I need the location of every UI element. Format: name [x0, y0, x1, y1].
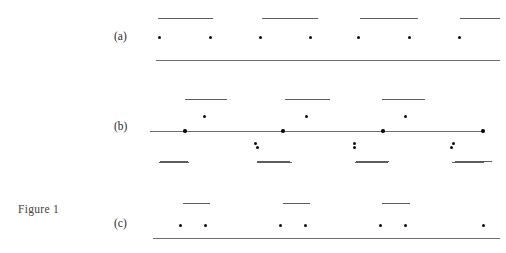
tick-segment-a-main-2	[360, 18, 418, 19]
data-point-c-lower-2	[279, 224, 282, 227]
baseline-a	[156, 60, 500, 61]
data-point-c-upper-2	[452, 142, 455, 145]
data-point-b-below-0	[256, 146, 259, 149]
data-point-b-below-2	[450, 146, 453, 149]
data-point-c-lower-3	[304, 224, 307, 227]
data-point-c-lower-4	[379, 224, 382, 227]
tick-segment-b-above-2	[382, 99, 425, 100]
data-point-b-online-0	[183, 129, 186, 132]
data-point-b-online-2	[381, 129, 384, 132]
tick-segment-c-upper-2	[356, 161, 389, 162]
panel-label-a: (a)	[114, 30, 127, 42]
data-point-a-main-5	[408, 36, 411, 39]
data-point-c-lower-6	[482, 224, 485, 227]
data-point-a-main-1	[209, 36, 212, 39]
data-point-c-lower-0	[179, 224, 182, 227]
baseline-b	[150, 131, 484, 132]
data-point-c-lower-5	[404, 224, 407, 227]
data-point-a-main-2	[259, 36, 262, 39]
tick-segment-c-lower-1	[283, 203, 310, 204]
data-point-a-main-4	[357, 36, 360, 39]
data-point-c-upper-0	[254, 142, 257, 145]
data-point-b-above-0	[203, 115, 206, 118]
tick-segment-c-lower-2	[382, 203, 410, 204]
data-point-c-upper-1	[353, 142, 356, 145]
panel-label-c: (c)	[114, 217, 127, 229]
tick-segment-c-upper-1	[257, 161, 290, 162]
tick-segment-c-upper-0	[160, 161, 188, 162]
tick-segment-c-upper-3	[455, 161, 492, 162]
data-point-b-below-1	[353, 146, 356, 149]
tick-segment-a-main-0	[158, 18, 213, 19]
panel-label-b: (b)	[114, 120, 127, 132]
data-point-a-main-3	[309, 36, 312, 39]
tick-segment-b-below-0	[159, 162, 189, 163]
baseline-c	[153, 238, 500, 239]
tick-segment-b-below-1	[257, 162, 292, 163]
tick-segment-b-above-0	[185, 99, 227, 100]
tick-segment-b-below-2	[355, 162, 388, 163]
data-point-b-online-3	[481, 129, 484, 132]
data-point-b-above-2	[404, 115, 407, 118]
tick-segment-b-below-3	[452, 162, 484, 163]
data-point-b-above-1	[305, 115, 308, 118]
data-point-b-online-1	[281, 129, 284, 132]
tick-segment-b-above-1	[285, 99, 330, 100]
figure-canvas: Figure 1(a)(b)(c)	[0, 0, 506, 253]
data-point-a-main-0	[158, 36, 161, 39]
tick-segment-a-main-1	[262, 18, 318, 19]
tick-segment-a-main-3	[460, 18, 500, 19]
figure-caption: Figure 1	[18, 203, 59, 215]
data-point-c-lower-1	[204, 224, 207, 227]
tick-segment-c-lower-0	[183, 203, 210, 204]
data-point-a-main-6	[458, 36, 461, 39]
